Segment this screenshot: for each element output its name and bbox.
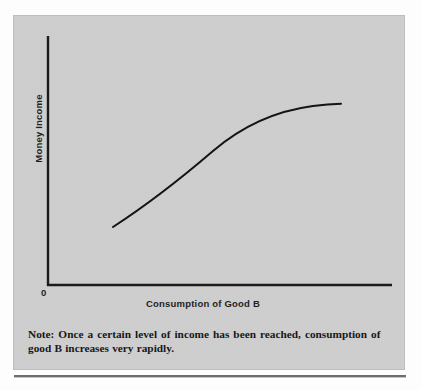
plot-area: Money Income Consumption of Good B 0	[13, 15, 405, 315]
chart-panel: Money Income Consumption of Good B 0 Not…	[13, 15, 405, 370]
x-axis-label: Consumption of Good B	[113, 298, 293, 309]
origin-label: 0	[41, 287, 46, 298]
engel-curve	[113, 104, 341, 227]
bottom-divider-shadow	[14, 377, 406, 378]
figure-note-line-2: good B increases very rapidly.	[28, 341, 388, 355]
y-axis-label: Money Income	[33, 84, 44, 174]
figure-note-line-1: Note: Once a certain level of income has…	[28, 327, 388, 341]
figure-note: Note: Once a certain level of income has…	[28, 327, 388, 356]
figure-root: Money Income Consumption of Good B 0 Not…	[0, 0, 421, 390]
chart-svg	[13, 15, 405, 315]
